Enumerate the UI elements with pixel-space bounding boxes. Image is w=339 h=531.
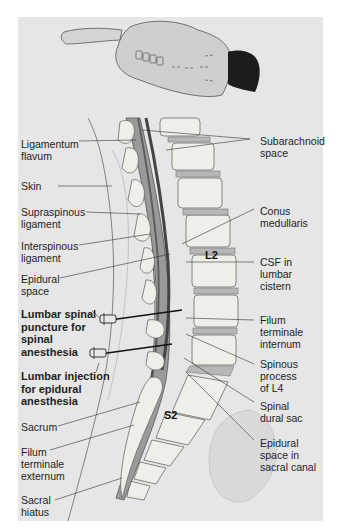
label-l2: L2: [205, 249, 218, 261]
label-filum-terminale-internum: Filum terminale internum: [260, 314, 303, 350]
label-sacrum: Sacrum: [21, 421, 57, 433]
label-spinal-dural-sac: Spinal dural sac: [260, 400, 303, 424]
label-csf-lumbar-cistern: CSF in lumbar cistern: [260, 256, 292, 292]
label-epidural-space: Epidural space: [21, 273, 60, 297]
label-subarachnoid-space: Subarachnoid space: [260, 135, 325, 159]
label-lumbar-injection-epidural: Lumbar injection for epidural anesthesia: [21, 370, 110, 408]
label-filum-terminale-externum: Filum terminale externum: [21, 446, 65, 482]
label-lumbar-spinal-puncture: Lumbar spinal puncture for spinal anesth…: [21, 308, 96, 358]
label-conus-medullaris: Conus medullaris: [260, 205, 308, 229]
label-s2: S2: [164, 409, 177, 421]
label-supraspinous-ligament: Supraspinous ligament: [21, 206, 85, 230]
label-epidural-space-sacral-canal: Epidural space in sacral canal: [260, 437, 316, 473]
label-sacral-hiatus: Sacral hiatus: [21, 494, 51, 518]
label-interspinous-ligament: Interspinous ligament: [21, 240, 78, 264]
patient-figure: [61, 21, 259, 96]
label-skin: Skin: [21, 180, 41, 192]
label-ligamentum-flavum: Ligamentum flavum: [21, 138, 79, 162]
label-spinous-process-l4: Spinous process of L4: [260, 358, 298, 394]
